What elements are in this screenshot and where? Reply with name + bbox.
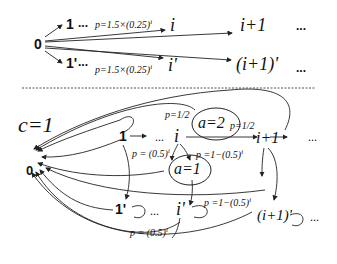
action-a1-label: a=1 [174, 161, 201, 177]
top-node-iprime: i' [168, 56, 177, 74]
dots-upper: ... [155, 131, 164, 143]
top-prob-upper: p=1.5×(0.25)i [95, 19, 152, 30]
prob-1-minus-lower: p =1−(0.5)i [204, 197, 251, 208]
top-node-0: 0 [34, 37, 42, 51]
node-i1: i+1 [256, 130, 279, 146]
node-i1prime: (i+1)' [257, 208, 292, 223]
node-iprime: i' [176, 200, 185, 218]
top-dots-lower: ... [78, 56, 88, 68]
prob-half-top: p=1/2 [165, 110, 190, 120]
prob-half-right: p=1/2 [230, 121, 255, 131]
tail-lower: ... [310, 211, 319, 223]
top-node-1prime: 1' [66, 56, 77, 70]
node-0: 0 [26, 164, 33, 177]
top-tail-upper: ... [296, 20, 306, 32]
top-prob-lower: p=1.5×(0.25)i [95, 64, 152, 75]
action-a2-label: a=2 [198, 115, 225, 131]
condition-label: c=1 [18, 114, 54, 136]
node-1: 1 [119, 129, 127, 143]
top-node-i1prime: (i+1)' [236, 55, 278, 73]
prob-1-minus: p =1−(0.5)i [196, 149, 243, 160]
top-node-1: 1 [66, 17, 74, 31]
dots-lower: ... [150, 205, 159, 217]
node-i: i [174, 127, 179, 145]
node-1prime: 1' [115, 202, 126, 216]
prob-05i: p = (0.5)i [132, 148, 170, 159]
tail-upper: ... [308, 131, 317, 143]
prob-05i-lower: p = (0.5)i [130, 227, 168, 238]
top-node-i1: i+1 [240, 16, 266, 34]
top-node-i: i [170, 16, 175, 34]
top-dots-upper: ... [78, 17, 88, 29]
top-tail-lower: ... [296, 62, 306, 74]
